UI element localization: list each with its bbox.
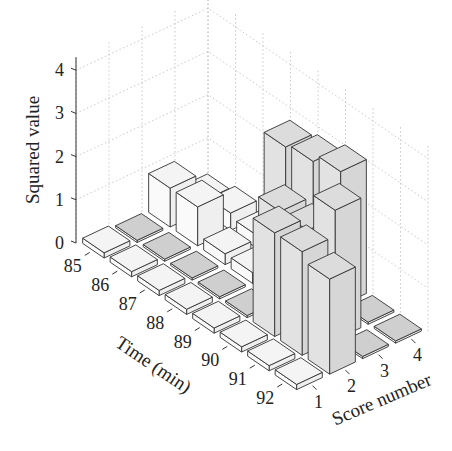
bar-side-face xyxy=(330,267,356,374)
score-tick xyxy=(313,386,317,390)
time-tick-label: 86 xyxy=(91,275,109,295)
time-tick xyxy=(112,271,117,274)
time-tick-label: 85 xyxy=(64,256,82,276)
time-tick-label: 92 xyxy=(256,388,274,408)
z-tick xyxy=(71,198,76,200)
bar-front-face xyxy=(253,218,274,336)
time-tick xyxy=(222,346,227,349)
score-tick-label: 3 xyxy=(380,361,389,381)
score-tick xyxy=(412,339,416,343)
score-tick-label: 4 xyxy=(413,345,422,365)
bar3d-chart: 01234 8586878889909192 1234 Squared valu… xyxy=(0,0,452,451)
bar-front-face xyxy=(281,237,302,355)
grid-line xyxy=(76,51,428,201)
time-tick xyxy=(277,384,282,387)
z-axis: 01234 xyxy=(55,57,76,253)
time-tick-label: 87 xyxy=(119,294,137,314)
time-tick-label: 89 xyxy=(174,332,192,352)
z-tick-label: 4 xyxy=(55,60,64,80)
bar xyxy=(308,252,355,374)
z-tick xyxy=(71,155,76,157)
time-tick xyxy=(195,328,200,331)
z-tick-label: 2 xyxy=(55,147,64,167)
z-tick-label: 0 xyxy=(55,233,64,253)
score-tick xyxy=(346,370,350,374)
time-tick xyxy=(167,309,172,312)
time-tick-label: 91 xyxy=(229,369,247,389)
score-tick xyxy=(379,355,383,359)
z-tick xyxy=(71,241,76,243)
time-tick-label: 90 xyxy=(201,350,219,370)
grid-line xyxy=(76,8,428,158)
bar-front-face xyxy=(308,264,329,374)
z-tick-label: 1 xyxy=(55,190,64,210)
time-tick-label: 88 xyxy=(146,313,164,333)
z-tick-label: 3 xyxy=(55,103,64,123)
z-tick xyxy=(71,68,76,70)
time-tick xyxy=(250,365,255,368)
score-tick-label: 1 xyxy=(314,392,323,412)
time-tick xyxy=(140,290,145,293)
z-tick xyxy=(71,111,76,113)
score-tick-label: 2 xyxy=(347,376,356,396)
z-axis-label: Squared value xyxy=(22,96,43,204)
time-tick xyxy=(85,252,90,255)
